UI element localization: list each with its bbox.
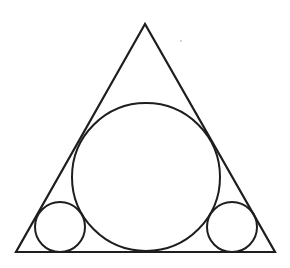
speck-mark	[180, 40, 181, 41]
background	[0, 0, 290, 268]
triangle-circles-diagram	[0, 0, 290, 268]
